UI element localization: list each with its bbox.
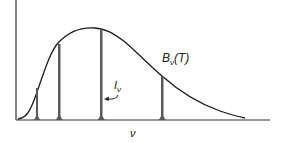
x-axis-label: ν (130, 128, 136, 139)
emission-line (55, 44, 64, 120)
curve-label: Bν(T) (162, 52, 189, 67)
emission-line (97, 29, 106, 120)
curve-label-main: B (162, 51, 170, 65)
curve-label-rest: (T) (174, 51, 189, 65)
blackbody-curve (18, 28, 245, 119)
arrow-head (104, 97, 109, 102)
line-label: Iν (114, 80, 121, 94)
line-label-sub: ν (117, 85, 121, 94)
blackbody-diagram (0, 0, 285, 143)
emission-line (33, 88, 41, 120)
emission-line (158, 76, 167, 120)
